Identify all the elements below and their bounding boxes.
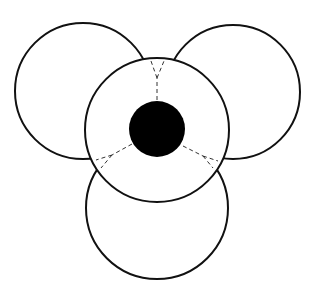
- core-black-disc: [129, 101, 185, 157]
- diagram-canvas: [0, 0, 315, 292]
- overlapping-circles-diagram: [0, 0, 315, 292]
